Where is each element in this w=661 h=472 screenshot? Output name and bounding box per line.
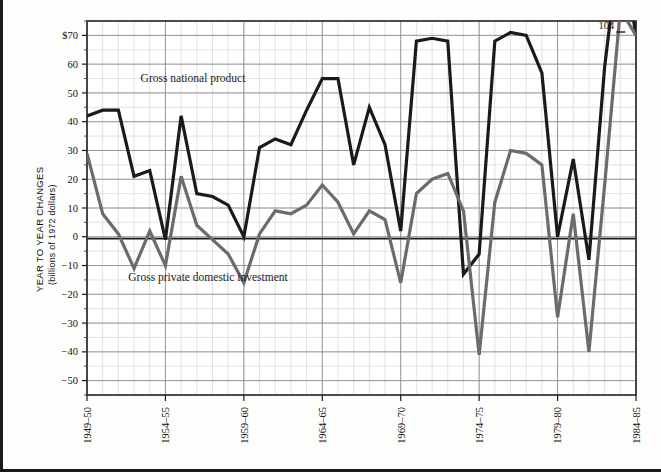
y-tick-label: 20 xyxy=(68,174,79,185)
y-axis-title-line1: YEAR TO YEAR CHANGES xyxy=(34,167,45,292)
series-label: Gross national product xyxy=(141,72,247,85)
y-tick-label: −20 xyxy=(62,289,78,300)
y-tick-label: −10 xyxy=(62,260,78,271)
y-tick-label: 50 xyxy=(68,88,79,99)
chart-figure: YEAR TO YEAR CHANGES (billions of 1972 d… xyxy=(0,0,661,472)
chart-svg: YEAR TO YEAR CHANGES (billions of 1972 d… xyxy=(3,0,661,472)
y-tick-label: −40 xyxy=(62,346,78,357)
x-tick-label: 1949–50 xyxy=(82,407,93,444)
y-tick-label: 60 xyxy=(68,59,79,70)
y-tick-label: 0 xyxy=(73,231,78,242)
y-axis-title-line2: (billions of 1972 dollars) xyxy=(47,184,57,285)
x-tick-label: 1964–65 xyxy=(317,407,328,444)
y-tick-label: 40 xyxy=(68,116,79,127)
y-axis-title: YEAR TO YEAR CHANGES (billions of 1972 d… xyxy=(34,167,57,292)
series-label: Gross private domestic investment xyxy=(128,271,288,284)
y-tick-label: −30 xyxy=(62,318,78,329)
x-axis-ticks: 1949–501954–551959–601964–651969–701974–… xyxy=(82,395,642,444)
x-tick-label: 1974–75 xyxy=(474,407,485,444)
y-tick-label: −50 xyxy=(62,375,78,386)
x-tick-label: 1979–80 xyxy=(552,407,563,444)
y-axis-ticks: $706050403020100−10−20−30−40−50 xyxy=(62,21,87,395)
annotation-label: 104 xyxy=(599,20,616,31)
x-tick-label: 1959–60 xyxy=(239,407,250,444)
y-tick-label: 10 xyxy=(68,203,79,214)
x-tick-label: 1984–85 xyxy=(631,407,642,444)
x-tick-label: 1954–55 xyxy=(160,407,171,444)
y-tick-label: 30 xyxy=(68,145,79,156)
x-tick-label: 1969–70 xyxy=(396,407,407,444)
y-tick-label: $70 xyxy=(62,30,78,41)
